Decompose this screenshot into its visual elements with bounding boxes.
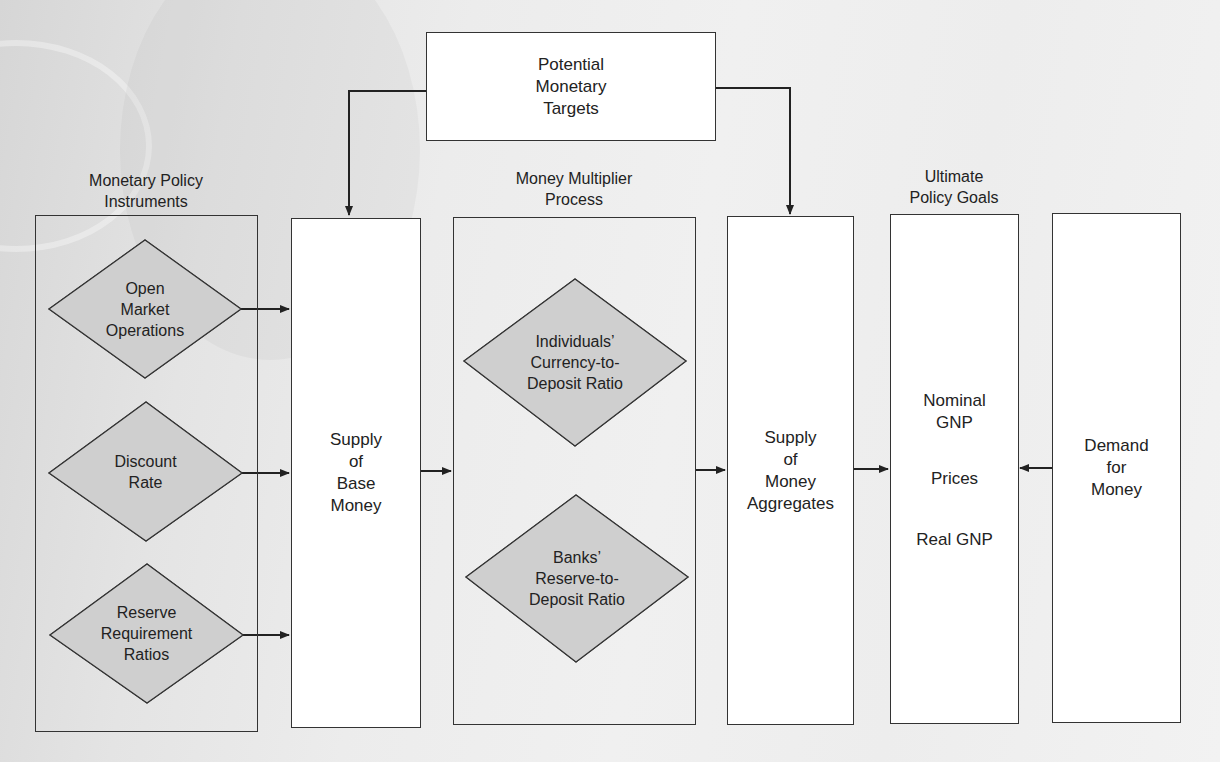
instrument-discount-rate: Discount Rate: [49, 402, 242, 541]
factor-currency-to-deposit: Individuals’ Currency-to- Deposit Ratio: [464, 279, 686, 446]
instrument-open-market-operations: Open Market Operations: [49, 240, 241, 378]
factor-reserve-to-deposit: Banks’ Reserve-to- Deposit Ratio: [466, 495, 688, 662]
instrument-reserve-requirement-ratios: Reserve Requirement Ratios: [50, 564, 243, 703]
